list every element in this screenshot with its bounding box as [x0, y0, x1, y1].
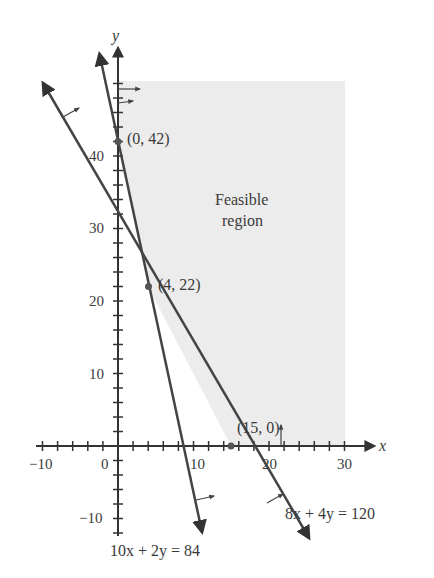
x-tick-label: 0: [101, 456, 109, 472]
point-label-15-0: (15, 0): [237, 419, 280, 437]
corner-point-15-0: [228, 443, 235, 450]
y-tick-label: 10: [89, 366, 104, 382]
corner-point-0-42: [115, 138, 122, 145]
feasible-region-label: Feasible: [215, 191, 268, 208]
equation-label-10x-2y-84: 10x + 2y = 84: [110, 542, 200, 560]
x-tick-label: −10: [29, 456, 52, 472]
y-tick-label: 40: [89, 148, 104, 164]
x-tick-label: 10: [190, 456, 205, 472]
chart-canvas: y x −10 0 10 20 30 40 30 20 10 −10 (0, 4…: [0, 0, 434, 578]
point-label-0-42: (0, 42): [127, 130, 170, 148]
y-tick-label: 20: [89, 293, 104, 309]
feasible-region-label: region: [222, 212, 263, 230]
equation-label-8x-4y-120: 8x + 4y = 120: [285, 505, 375, 523]
x-axis-label: x: [378, 437, 386, 454]
y-tick-label: −10: [79, 510, 102, 526]
y-axis-label: y: [110, 27, 120, 45]
x-tick-label: 30: [337, 456, 352, 472]
x-tick-label: 20: [262, 456, 277, 472]
x-ticks: [43, 441, 345, 451]
corner-point-4-22: [145, 283, 152, 290]
y-tick-label: 30: [89, 220, 104, 236]
point-label-4-22: (4, 22): [158, 276, 201, 294]
